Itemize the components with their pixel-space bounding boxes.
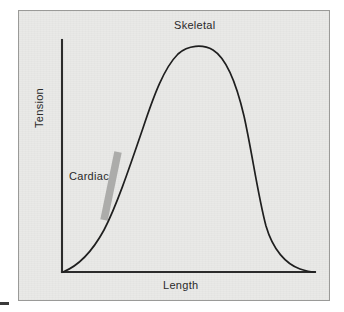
plot-canvas (0, 0, 344, 312)
annotation-skeletal: Skeletal (174, 19, 216, 31)
figure-root: Skeletal Cardiac Length Tension (0, 0, 344, 312)
skeletal-curve (63, 46, 314, 272)
cardiac-highlight-band (104, 152, 118, 220)
annotation-cardiac: Cardiac (69, 170, 109, 182)
x-axis-label: Length (163, 279, 198, 291)
registration-dash (0, 302, 9, 305)
y-axis-label: Tension (33, 88, 45, 128)
